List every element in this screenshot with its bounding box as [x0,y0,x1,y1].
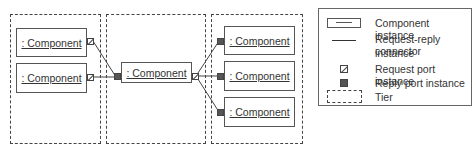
component-label: : Component [126,67,186,79]
component-instance[interactable]: : Component [16,63,87,93]
legend-label: instance [375,47,414,59]
reply-port-icon [217,38,224,45]
component-instance[interactable]: : Component [16,28,87,57]
component-label: : Component [229,106,289,118]
legend-label: Reply port instance [375,77,465,89]
legend-label: Tier [375,91,393,103]
connector-t2c1-t3c3 [196,76,219,112]
request-port-icon [192,73,199,80]
component-instance[interactable]: : Component [121,62,192,83]
component-instance[interactable]: : Component [224,61,295,91]
component-label: : Component [229,70,289,82]
connector-t2c1-t3c1 [196,41,219,76]
reply-port-icon [114,73,121,80]
component-label: : Component [229,35,289,47]
connector-line-icon [332,40,356,41]
component-label: : Component [21,37,81,49]
request-port-icon [87,38,94,45]
request-port-icon [340,65,348,73]
component-instance-icon [327,18,361,28]
component-instance[interactable]: : Component [224,97,295,127]
component-instance[interactable]: : Component [224,26,295,55]
reply-port-icon [217,109,224,116]
request-port-icon [87,74,94,81]
connector-t1c1-t2c1 [93,41,116,77]
reply-port-icon [217,73,224,80]
tier-icon [327,90,362,103]
reply-port-icon [340,79,348,87]
component-label: : Component [21,72,81,84]
legend: Component instance Request-reply connect… [318,8,472,106]
